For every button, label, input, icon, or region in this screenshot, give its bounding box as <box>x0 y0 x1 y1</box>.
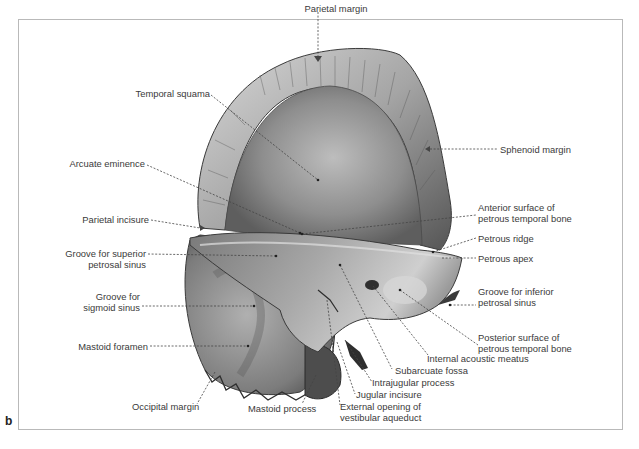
label-groove-superior-line2: petrosal sinus <box>40 259 146 270</box>
label-external-opening-vestibular-aqueduct: External opening of vestibular aqueduct <box>340 401 421 423</box>
label-internal-acoustic-meatus: Internal acoustic meatus <box>427 353 529 364</box>
label-mastoid-foramen: Mastoid foramen <box>40 341 148 352</box>
label-anterior-surface-line2: petrous temporal bone <box>478 213 572 224</box>
label-intrajugular-process: Intrajugular process <box>372 377 454 388</box>
label-jugular-incisure: Jugular incisure <box>356 389 422 400</box>
label-parietal-margin: Parietal margin <box>286 3 386 14</box>
label-arcuate-eminence: Arcuate eminence <box>40 158 145 169</box>
label-external-opening-line2: vestibular aqueduct <box>340 412 421 423</box>
label-posterior-surface: Posterior surface of petrous temporal bo… <box>478 332 572 354</box>
label-groove-sigmoid-line1: Groove for <box>40 291 140 302</box>
label-groove-inferior-petrosal: Groove for inferior petrosal sinus <box>478 286 554 308</box>
label-external-opening-line1: External opening of <box>340 401 421 412</box>
label-parietal-incisure: Parietal incisure <box>40 214 149 225</box>
label-anterior-surface: Anterior surface of petrous temporal bon… <box>478 202 572 224</box>
label-petrous-apex: Petrous apex <box>478 253 533 264</box>
label-posterior-surface-line1: Posterior surface of <box>478 332 572 343</box>
label-groove-inferior-line2: petrosal sinus <box>478 297 554 308</box>
label-groove-sigmoid-line2: sigmoid sinus <box>40 302 140 313</box>
label-temporal-squama: Temporal squama <box>110 88 210 99</box>
label-groove-superior-petrosal: Groove for superior petrosal sinus <box>40 248 146 270</box>
label-groove-sigmoid: Groove for sigmoid sinus <box>40 291 140 313</box>
label-anterior-surface-line1: Anterior surface of <box>478 202 572 213</box>
label-occipital-margin: Occipital margin <box>132 401 199 412</box>
label-sphenoid-margin: Sphenoid margin <box>500 144 571 155</box>
label-groove-inferior-line1: Groove for inferior <box>478 286 554 297</box>
label-mastoid-process: Mastoid process <box>248 403 316 414</box>
label-groove-superior-line1: Groove for superior <box>40 248 146 259</box>
label-petrous-ridge: Petrous ridge <box>478 233 534 244</box>
label-subarcuate-fossa: Subarcuate fossa <box>395 365 468 376</box>
